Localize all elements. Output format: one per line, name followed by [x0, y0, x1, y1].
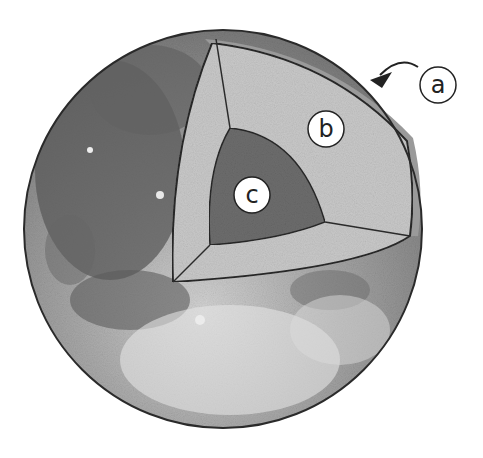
moon-cutaway-diagram: a b c [0, 0, 483, 458]
svg-text:c: c [245, 181, 258, 209]
label-b: b [308, 111, 344, 147]
svg-text:a: a [431, 71, 446, 99]
pointer-arrow-icon [370, 63, 418, 89]
label-c: c [234, 177, 270, 213]
label-a: a [420, 67, 456, 103]
svg-text:b: b [318, 115, 333, 143]
